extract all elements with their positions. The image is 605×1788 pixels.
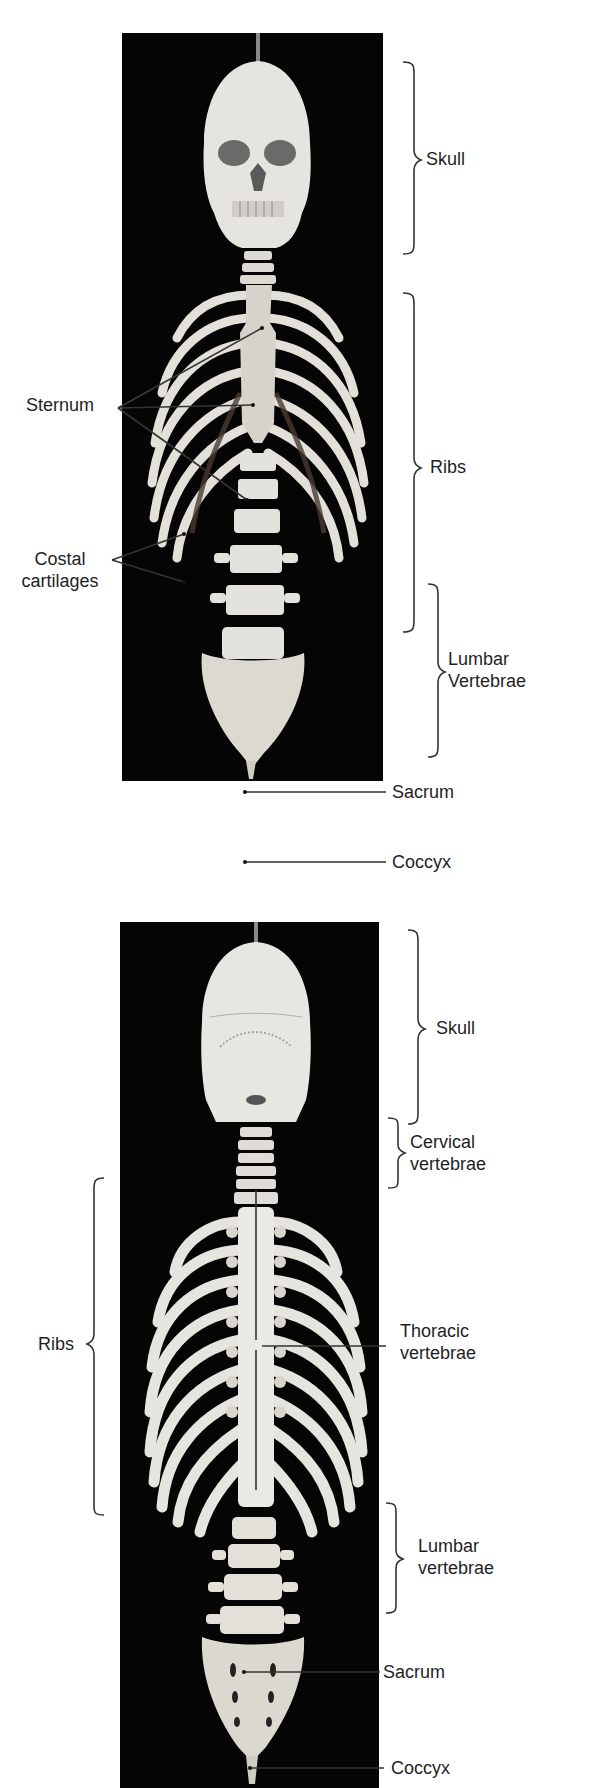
label-lumbar-line2: Vertebrae xyxy=(448,670,526,692)
label-skull-posterior: Skull xyxy=(436,1017,475,1039)
label-costal-cartilages: Costal cartilages xyxy=(18,548,102,592)
label-lumbar-line1-posterior: Lumbar xyxy=(418,1535,494,1557)
label-sacrum-posterior: Sacrum xyxy=(383,1661,445,1683)
label-lumbar-line2-posterior: vertebrae xyxy=(418,1557,494,1579)
label-lumbar-vertebrae-posterior: Lumbar vertebrae xyxy=(418,1535,494,1579)
anterior-skeleton-illustration xyxy=(122,33,383,781)
label-skull-anterior: Skull xyxy=(426,148,465,170)
label-cervical-line2: vertebrae xyxy=(410,1153,486,1175)
label-cervical-vertebrae: Cervical vertebrae xyxy=(410,1131,486,1175)
label-cervical-line1: Cervical xyxy=(410,1131,486,1153)
label-costal-line1: Costal xyxy=(18,548,102,570)
label-thoracic-vertebrae: Thoracic vertebrae xyxy=(400,1320,476,1364)
label-sacrum-anterior: Sacrum xyxy=(392,781,454,803)
label-sternum: Sternum xyxy=(26,394,94,416)
posterior-skeleton-illustration xyxy=(120,922,379,1788)
anterior-skeleton-photo xyxy=(122,33,383,781)
label-lumbar-vertebrae-anterior: Lumbar Vertebrae xyxy=(448,648,526,692)
label-ribs-posterior: Ribs xyxy=(38,1333,74,1355)
label-thoracic-line2: vertebrae xyxy=(400,1342,476,1364)
label-coccyx-anterior: Coccyx xyxy=(392,851,451,873)
label-costal-line2: cartilages xyxy=(18,570,102,592)
posterior-skeleton-photo xyxy=(120,922,379,1788)
label-ribs-anterior: Ribs xyxy=(430,456,466,478)
label-coccyx-posterior: Coccyx xyxy=(391,1757,450,1779)
label-thoracic-line1: Thoracic xyxy=(400,1320,476,1342)
label-lumbar-line1: Lumbar xyxy=(448,648,526,670)
